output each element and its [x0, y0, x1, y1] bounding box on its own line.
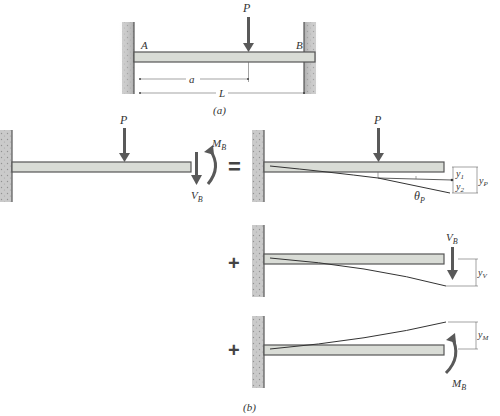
wall-left-icon: [118, 22, 134, 94]
beam: [264, 162, 444, 172]
ym-label: yM: [477, 329, 489, 342]
plus-sign: +: [228, 339, 240, 361]
beam: [264, 254, 444, 264]
y2-label: y2: [455, 181, 464, 194]
y1-label: y1: [455, 168, 464, 181]
caption-b: (b): [243, 401, 256, 414]
yp-label: yP: [478, 175, 488, 188]
wall-icon: [252, 316, 264, 388]
caption-a: (a): [213, 104, 226, 117]
dimension-a-label: a: [189, 73, 195, 85]
beam: [12, 162, 191, 172]
load-label: P: [373, 113, 382, 127]
load-label: P: [119, 113, 128, 127]
figure-b-case-v: + VB yV: [228, 225, 487, 297]
beam: [134, 52, 315, 62]
shear-label: VB: [191, 189, 203, 204]
superposition-diagram: P A B a L (a) P: [0, 0, 500, 416]
moment-arrow-ccw-icon: [204, 145, 216, 184]
moment-arrow-ccw-icon: [446, 333, 456, 373]
shear-arrow-down-icon: [447, 247, 458, 280]
figure-b-case-p: P y1 y2 yP θP: [252, 113, 488, 205]
wall-icon: [252, 225, 264, 297]
figure-a: P A B a L (a): [118, 1, 320, 117]
shear-label: VB: [446, 231, 458, 246]
wall-icon: [0, 130, 12, 202]
equals-sign: =: [228, 154, 241, 179]
wall-icon: [252, 130, 264, 202]
load-label: P: [242, 1, 251, 15]
figure-b-case-m: + MB yM: [228, 316, 489, 392]
shear-arrow-down-icon: [191, 152, 202, 185]
load-arrow-icon: [243, 17, 254, 52]
support-a-label: A: [140, 39, 148, 51]
plus-sign: +: [228, 252, 240, 274]
load-arrow-icon: [373, 128, 384, 162]
yv-label: yV: [477, 267, 487, 280]
figure-b-original: P VB MB =: [0, 113, 241, 204]
dimension-L-label: L: [218, 87, 225, 99]
support-b-label: B: [296, 39, 303, 51]
load-arrow-icon: [119, 128, 130, 162]
theta-label: θP: [414, 189, 425, 205]
moment-label: MB: [451, 377, 466, 392]
